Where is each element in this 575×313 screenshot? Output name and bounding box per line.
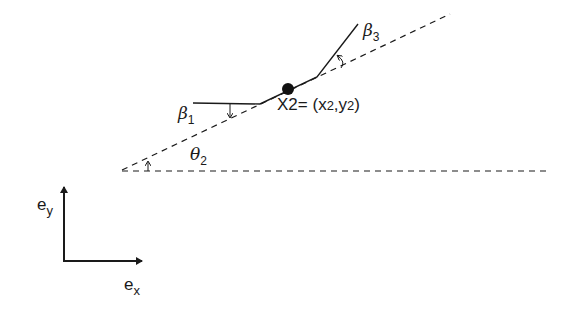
point-x-subscript: 2: [327, 98, 334, 113]
theta2-subscript: 2: [200, 154, 207, 168]
ey-subscript: y: [46, 203, 53, 218]
beta3-angle-arrow: [338, 56, 343, 68]
point-close-paren: ): [354, 95, 360, 114]
theta2-label: θ2: [190, 146, 207, 163]
point-name-subscript: 2: [288, 95, 297, 114]
point-x2-label: X2= (x2,y2): [277, 96, 360, 113]
point-x2-dot: [282, 83, 294, 95]
theta2-symbol: θ: [190, 144, 200, 164]
ex-label: ex: [124, 276, 140, 293]
beta3-symbol: β: [363, 20, 373, 40]
point-equals: = (: [298, 95, 318, 114]
beta3-label: β3: [363, 22, 380, 39]
link-chain: [193, 24, 358, 104]
point-y: y: [339, 95, 348, 114]
beta1-subscript: 1: [188, 113, 195, 127]
diagram-canvas: β1 β3 θ2 X2= (x2,y2) ey ex: [0, 0, 575, 313]
ex-subscript: x: [133, 283, 140, 298]
diagram-lines: [0, 0, 575, 313]
beta1-symbol: β: [178, 103, 188, 123]
beta1-label: β1: [178, 105, 195, 122]
point-name: X: [277, 95, 288, 114]
point-x: x: [318, 95, 327, 114]
ey-label: ey: [37, 196, 53, 213]
beta3-subscript: 3: [373, 30, 380, 44]
